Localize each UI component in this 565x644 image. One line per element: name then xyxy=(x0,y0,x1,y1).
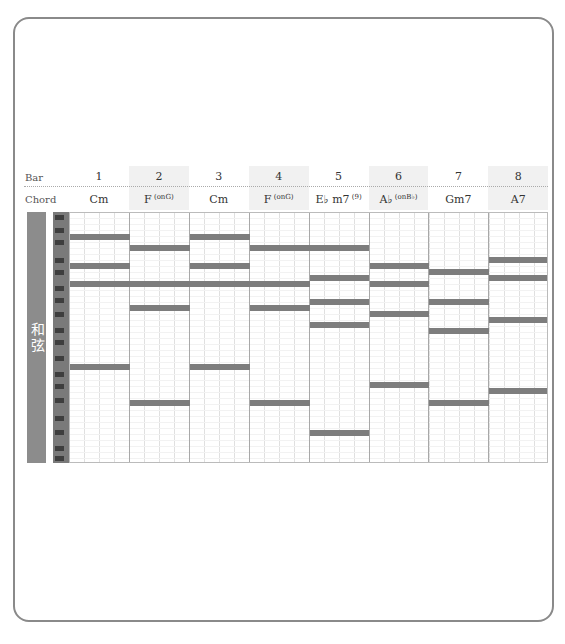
chord-name: F (onG) xyxy=(129,193,189,206)
chord-name: Cm xyxy=(69,193,129,206)
bar-number: 4 xyxy=(249,170,309,183)
chord-root: E♭ m7 xyxy=(315,193,349,206)
chord-name: Gm7 xyxy=(428,193,488,206)
chord-root: Cm xyxy=(90,193,109,206)
bar-line xyxy=(428,213,429,462)
note-block[interactable] xyxy=(310,275,370,281)
chord-root: F xyxy=(264,193,272,206)
note-block[interactable] xyxy=(370,281,430,287)
note-block[interactable] xyxy=(489,317,548,323)
note-block[interactable] xyxy=(310,299,370,305)
note-block[interactable] xyxy=(250,305,310,311)
note-block[interactable] xyxy=(250,281,310,287)
note-block[interactable] xyxy=(190,263,250,269)
note-block[interactable] xyxy=(370,382,430,388)
chord-name: Cm xyxy=(189,193,249,206)
black-key xyxy=(55,312,64,317)
piano-keyboard xyxy=(53,212,69,463)
bar-number: 7 xyxy=(428,170,488,183)
note-block[interactable] xyxy=(130,305,190,311)
black-key xyxy=(55,372,64,377)
note-block[interactable] xyxy=(429,269,489,275)
note-block[interactable] xyxy=(370,311,430,317)
note-block[interactable] xyxy=(489,275,548,281)
note-block[interactable] xyxy=(130,281,190,287)
black-key xyxy=(55,286,64,291)
black-key xyxy=(55,430,64,435)
note-block[interactable] xyxy=(250,400,310,406)
note-block[interactable] xyxy=(310,245,370,251)
black-key xyxy=(55,215,64,220)
chord-modifier: (9) xyxy=(350,193,362,201)
bar-number: 8 xyxy=(488,170,548,183)
black-key xyxy=(55,340,64,345)
black-key xyxy=(55,328,64,333)
black-key xyxy=(55,270,64,275)
note-block[interactable] xyxy=(310,322,370,328)
note-block[interactable] xyxy=(429,299,489,305)
bar-number: 1 xyxy=(69,170,129,183)
note-block[interactable] xyxy=(130,245,190,251)
black-key xyxy=(55,240,64,245)
note-block[interactable] xyxy=(190,364,250,370)
black-key xyxy=(55,228,64,233)
chord-root: A♭ xyxy=(380,193,393,206)
bar-number: 5 xyxy=(309,170,369,183)
note-block[interactable] xyxy=(70,281,130,287)
chord-modifier: (onG) xyxy=(272,193,294,201)
chord-modifier: (onB♭) xyxy=(393,193,418,201)
chord-name: A♭ (onB♭) xyxy=(369,193,429,206)
header-divider xyxy=(24,186,548,187)
black-key xyxy=(55,398,64,403)
bar-number: 2 xyxy=(129,170,189,183)
chord-root: F xyxy=(144,193,152,206)
black-key xyxy=(55,416,64,421)
note-block[interactable] xyxy=(370,263,430,269)
black-key xyxy=(55,384,64,389)
piano-roll-grid xyxy=(69,212,548,463)
bar-number: 6 xyxy=(369,170,429,183)
chord-root: Cm xyxy=(209,193,228,206)
note-block[interactable] xyxy=(250,245,310,251)
black-key xyxy=(55,356,64,361)
note-block[interactable] xyxy=(489,388,548,394)
chord-modifier: (onG) xyxy=(152,193,174,201)
black-key xyxy=(55,258,64,263)
chord-row-label: Chord xyxy=(25,194,56,205)
note-block[interactable] xyxy=(190,281,250,287)
black-key xyxy=(55,456,64,461)
note-block[interactable] xyxy=(429,400,489,406)
chord-name: F (onG) xyxy=(249,193,309,206)
bar-line xyxy=(488,213,489,462)
bar-row-label: Bar xyxy=(25,172,43,183)
note-block[interactable] xyxy=(70,263,130,269)
note-block[interactable] xyxy=(70,234,130,240)
bar-number: 3 xyxy=(189,170,249,183)
note-block[interactable] xyxy=(70,364,130,370)
note-block[interactable] xyxy=(429,328,489,334)
note-block[interactable] xyxy=(130,400,190,406)
chord-name: E♭ m7 (9) xyxy=(309,193,369,206)
chord-root: Gm7 xyxy=(445,193,471,206)
note-block[interactable] xyxy=(190,234,250,240)
note-block[interactable] xyxy=(310,430,370,436)
chord-root: A7 xyxy=(511,193,526,206)
chord-name: A7 xyxy=(488,193,548,206)
chord-track-label: 和弦 xyxy=(27,212,46,463)
black-key xyxy=(55,298,64,303)
note-block[interactable] xyxy=(489,257,548,263)
black-key xyxy=(55,446,64,451)
